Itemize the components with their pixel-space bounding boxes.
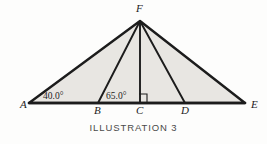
vertex-label-b: B xyxy=(94,104,101,116)
angle-measure-at-a: 40.0° xyxy=(43,91,64,101)
illustration-figure-page: A B C D E F 40.0° 65.0° ILLUSTRATION 3 xyxy=(0,0,267,144)
angle-measure-at-b: 65.0° xyxy=(106,91,127,101)
vertex-label-f: F xyxy=(135,2,143,14)
vertex-label-d: D xyxy=(180,104,189,116)
vertex-label-a: A xyxy=(19,98,27,110)
vertex-label-e: E xyxy=(250,98,258,110)
figure-caption: ILLUSTRATION 3 xyxy=(0,122,267,133)
vertex-label-c: C xyxy=(136,104,144,116)
